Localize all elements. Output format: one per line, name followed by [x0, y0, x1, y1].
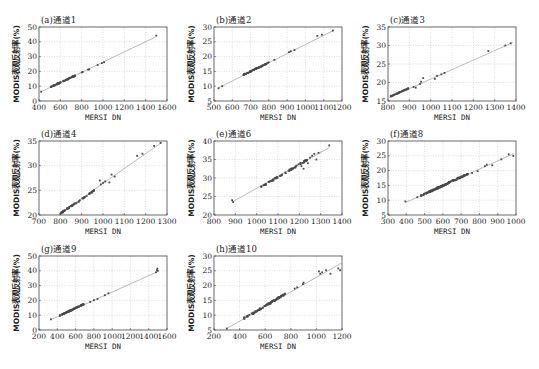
x-tick-label: 600 [225, 103, 240, 112]
subplot-3: 800900100011001200130014001520253035(c)通… [360, 15, 526, 122]
data-point [221, 85, 223, 87]
y-tick-label: 25 [202, 37, 212, 46]
axes-frame [214, 27, 342, 101]
data-point [153, 145, 155, 147]
data-point [76, 202, 78, 204]
x-tick-label: 1400 [139, 332, 158, 341]
data-point [255, 310, 257, 312]
x-tick-label: 1200 [290, 217, 309, 226]
y-tick-label: 10 [376, 196, 386, 205]
data-point [265, 305, 267, 307]
data-point [311, 155, 313, 157]
y-tick-label: 35 [27, 137, 37, 146]
x-tick-label: 800 [87, 332, 102, 341]
data-point [477, 170, 479, 172]
data-point [397, 92, 399, 94]
data-point [63, 313, 65, 315]
subplot-title: (h)通道10 [216, 244, 257, 254]
x-tick-label: 1000 [93, 217, 112, 226]
data-point [316, 159, 318, 161]
data-point [99, 180, 101, 182]
data-point [512, 155, 514, 157]
data-point [434, 78, 436, 80]
data-point [261, 186, 263, 188]
data-point [301, 165, 303, 167]
x-tick-label: 600 [53, 103, 68, 112]
data-point [93, 299, 95, 301]
axes-frame [39, 256, 167, 330]
data-point [279, 296, 281, 298]
y-tick-label: 15 [202, 67, 212, 76]
data-point [262, 307, 264, 309]
x-tick-label: 900 [228, 217, 243, 226]
y-tick-label: 30 [27, 161, 37, 170]
data-point [510, 42, 512, 44]
data-point [61, 314, 63, 316]
x-tick-label: 1000 [93, 103, 112, 112]
data-point [52, 85, 54, 87]
data-point [419, 83, 421, 85]
data-point [313, 153, 315, 155]
x-tick-label: 1000 [506, 217, 525, 226]
x-tick-label: 1200 [136, 217, 155, 226]
y-tick-label: 15 [202, 296, 212, 305]
y-tick-label: 20 [202, 52, 212, 61]
y-tick-label: 5 [207, 97, 212, 106]
data-point [425, 193, 427, 195]
y-tick-label: 15 [376, 97, 386, 106]
data-point [40, 91, 42, 93]
data-point [83, 197, 85, 199]
y-axis-label: MODIS表观反射率(%) [360, 25, 370, 103]
x-tick-label: 800 [284, 332, 299, 341]
y-tick-label: 0 [32, 326, 37, 335]
x-axis-label: MERSI DN [260, 113, 296, 122]
x-tick-label: 1400 [136, 103, 155, 112]
y-tick-label: 20 [27, 67, 37, 76]
data-point [242, 74, 244, 76]
x-tick-label: 1000 [247, 217, 266, 226]
x-tick-label: 1400 [332, 217, 351, 226]
data-point [292, 168, 294, 170]
data-point [284, 172, 286, 174]
data-point [157, 268, 159, 270]
data-point [272, 300, 274, 302]
subplot-1: 400600800100012001400160001020304050(a)通… [11, 15, 177, 122]
data-point [303, 162, 305, 164]
subplot-title: (f)通道8 [390, 129, 423, 139]
data-point [100, 184, 102, 186]
data-point [279, 175, 281, 177]
x-tick-label: 1100 [442, 103, 461, 112]
x-tick-label: 800 [472, 217, 487, 226]
x-tick-label: 1200 [332, 103, 351, 112]
data-point [218, 87, 220, 89]
data-point [77, 306, 79, 308]
x-axis-label: MERSI DN [85, 227, 121, 236]
subplot-title: (g)通道9 [41, 244, 76, 254]
data-point [60, 81, 62, 83]
data-point [62, 80, 64, 82]
x-tick-label: 1000 [103, 332, 122, 341]
data-point [491, 164, 493, 166]
x-axis-label: MERSI DN [260, 227, 296, 236]
y-axis-label: MODIS表观反射率(%) [186, 254, 196, 332]
x-axis-label: MERSI DN [260, 342, 296, 351]
axes-frame [388, 141, 516, 215]
y-tick-label: 25 [202, 266, 212, 275]
y-tick-label: 10 [27, 311, 37, 320]
data-point [66, 207, 68, 209]
data-point [453, 179, 455, 181]
data-point [71, 205, 73, 207]
data-point [318, 152, 320, 154]
data-point [253, 69, 255, 71]
x-tick-label: 1100 [314, 103, 333, 112]
x-tick-label: 1000 [421, 103, 440, 112]
data-point [256, 67, 258, 69]
y-tick-label: 0 [32, 97, 37, 106]
x-tick-label: 1000 [296, 103, 315, 112]
subplot-title: (a)通道1 [41, 15, 76, 25]
x-axis-label: MERSI DN [85, 113, 121, 122]
x-tick-label: 1300 [157, 217, 176, 226]
y-axis-label: MODIS表观反射率(%) [360, 139, 370, 217]
data-point [231, 199, 233, 201]
data-point [82, 71, 84, 73]
